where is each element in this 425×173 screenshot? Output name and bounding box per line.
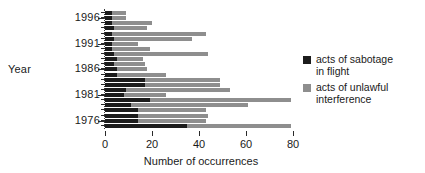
bar-row [105, 32, 295, 36]
y-axis-tick [101, 53, 105, 54]
bar-row [105, 16, 295, 20]
bar-segment-interference [138, 108, 206, 112]
x-axis-tick-label: 60 [240, 138, 252, 150]
y-axis-tick-label: 1981 [75, 88, 100, 100]
bar-segment-sabotage [105, 62, 114, 66]
bar-row [105, 93, 295, 97]
bar-row [105, 67, 295, 71]
bar-row [105, 47, 295, 51]
bar-row [105, 21, 295, 25]
y-axis-tick [101, 115, 105, 116]
bar-segment-interference [117, 67, 148, 71]
x-axis-tick [105, 131, 106, 136]
bar-row [105, 42, 295, 46]
bar-segment-interference [112, 16, 126, 20]
bar-segment-sabotage [105, 37, 114, 41]
legend-item: acts of unlawfulinterference [303, 82, 421, 105]
bar-row [105, 83, 295, 87]
x-axis-line [105, 131, 297, 132]
x-axis-title: Number of occurrences [105, 155, 297, 167]
legend-label: acts of unlawfulinterference [316, 82, 388, 105]
plot-area [105, 10, 295, 128]
x-axis-tick [246, 131, 247, 136]
bar-segment-sabotage [105, 103, 131, 107]
x-axis-tick-label: 40 [193, 138, 205, 150]
y-axis-tick [101, 104, 105, 105]
bar-segment-sabotage [105, 83, 145, 87]
bar-row [105, 88, 295, 92]
bar-segment-interference [126, 88, 229, 92]
bar-segment-interference [145, 83, 220, 87]
bar-row [105, 37, 295, 41]
y-axis-tick [101, 84, 105, 85]
bar-segment-sabotage [105, 11, 112, 15]
y-axis-tick [101, 125, 105, 126]
bar-segment-sabotage [105, 124, 187, 128]
bar-segment-sabotage [105, 88, 126, 92]
y-axis-tick [101, 63, 105, 64]
y-axis-tick [101, 99, 105, 100]
y-axis-tick [101, 22, 105, 23]
legend-label-line: interference [316, 94, 388, 106]
bar-segment-sabotage [105, 108, 138, 112]
bar-row [105, 52, 295, 56]
y-axis-tick [101, 27, 105, 28]
x-axis-tick [199, 131, 200, 136]
bar-segment-interference [187, 124, 290, 128]
y-axis-tick [101, 43, 105, 44]
bar-segment-interference [150, 98, 291, 102]
y-axis-tick [101, 68, 105, 69]
bar-segment-sabotage [105, 57, 117, 61]
bar-segment-sabotage [105, 26, 114, 30]
legend-label-line: in flight [316, 66, 393, 78]
bar-row [105, 73, 295, 77]
bar-row [105, 124, 295, 128]
bar-segment-interference [124, 93, 166, 97]
bar-segment-sabotage [105, 32, 112, 36]
bar-segment-interference [112, 42, 138, 46]
bar-segment-interference [112, 11, 126, 15]
y-axis-tick [101, 109, 105, 110]
bar-segment-interference [145, 78, 220, 82]
bar-row [105, 62, 295, 66]
legend-item: acts of sabotagein flight [303, 54, 421, 77]
x-axis-tick-label: 0 [102, 138, 108, 150]
y-axis-tick [101, 38, 105, 39]
bar-row [105, 108, 295, 112]
bar-segment-sabotage [105, 98, 150, 102]
y-axis-tick-label: 1991 [75, 37, 100, 49]
bar-row [105, 11, 295, 15]
bar-segment-interference [131, 103, 249, 107]
y-axis-tick [101, 33, 105, 34]
bar-row [105, 57, 295, 61]
black-square-icon [303, 56, 311, 64]
bar-row [105, 114, 295, 118]
y-axis-tick-label: 1986 [75, 62, 100, 74]
x-axis-tick [152, 131, 153, 136]
bar-segment-sabotage [105, 21, 112, 25]
bar-segment-interference [117, 57, 143, 61]
bar-row [105, 103, 295, 107]
chart-container: Year 19961991198619811976 020406080 Numb… [0, 0, 425, 173]
bar-segment-interference [138, 114, 209, 118]
y-axis-tick [101, 17, 105, 18]
bar-segment-sabotage [105, 114, 138, 118]
bar-segment-sabotage [105, 93, 124, 97]
legend-label-line: acts of unlawful [316, 82, 388, 94]
bar-segment-interference [138, 119, 206, 123]
legend-label: acts of sabotagein flight [316, 54, 393, 77]
bar-segment-interference [117, 73, 166, 77]
y-axis-tick [101, 89, 105, 90]
x-axis-tick-label: 80 [287, 138, 299, 150]
y-axis-tick [101, 74, 105, 75]
y-axis-tick [101, 58, 105, 59]
bar-segment-sabotage [105, 16, 112, 20]
y-axis-tick [101, 94, 105, 95]
y-axis-tick [101, 79, 105, 80]
bar-segment-interference [114, 62, 145, 66]
bar-segment-interference [114, 37, 192, 41]
bar-segment-sabotage [105, 42, 112, 46]
gray-square-icon [303, 84, 311, 92]
y-axis-tick [101, 120, 105, 121]
bar-row [105, 26, 295, 30]
